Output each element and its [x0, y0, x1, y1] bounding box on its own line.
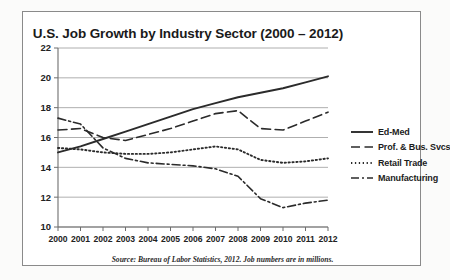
- legend-item-ed-med[interactable]: Ed-Med: [351, 124, 446, 140]
- x-tick-label: 2004: [138, 234, 157, 244]
- y-tick-label: 20: [40, 72, 51, 83]
- x-tick-label: 2003: [116, 234, 135, 244]
- y-tick-label: 22: [40, 42, 51, 53]
- series-lines-group: [58, 76, 328, 207]
- y-tick-label: 18: [40, 102, 51, 113]
- y-tick-label: 14: [40, 162, 51, 173]
- legend-label: Ed-Med: [378, 127, 410, 137]
- legend-label: Prof. & Bus. Svcs: [378, 142, 450, 152]
- legend-item-retail-trade[interactable]: Retail Trade: [351, 155, 446, 171]
- legend-item-manufacturing[interactable]: Manufacturing: [351, 171, 446, 187]
- gridlines-group: [58, 48, 328, 227]
- x-tick-label: 2010: [273, 234, 292, 244]
- series-line-ed-med: [58, 76, 328, 152]
- x-tick-label: 2011: [296, 234, 315, 244]
- legend-item-prof-bus-svcs[interactable]: Prof. & Bus. Svcs: [351, 140, 446, 156]
- legend-label: Retail Trade: [378, 158, 427, 168]
- source-note: Source: Bureau of Labor Statistics, 2012…: [23, 255, 422, 264]
- x-tick-label: 2008: [228, 234, 247, 244]
- y-tick-labels-group: 10121416182022: [40, 42, 51, 232]
- x-tick-label: 2012: [318, 234, 337, 244]
- legend-line-swatch-icon: [351, 142, 373, 152]
- x-tick-labels-group: 2000200120022003200420052006200720082009…: [48, 234, 337, 244]
- series-line-manufacturing: [58, 118, 328, 208]
- chart-legend: Ed-MedProf. & Bus. SvcsRetail TradeManuf…: [351, 124, 446, 186]
- x-tick-label: 2005: [161, 234, 180, 244]
- y-tick-label: 12: [40, 192, 51, 203]
- legend-line-swatch-icon: [351, 158, 373, 168]
- y-tick-label: 10: [40, 221, 51, 232]
- legend-line-swatch-icon: [351, 173, 373, 183]
- legend-line-swatch-icon: [351, 127, 373, 137]
- x-tick-label: 2006: [183, 234, 202, 244]
- x-tick-label: 2001: [71, 234, 90, 244]
- x-tick-label: 2002: [93, 234, 112, 244]
- series-line-retail-trade: [58, 146, 328, 162]
- x-tick-label: 2009: [251, 234, 270, 244]
- x-tick-label: 2000: [48, 234, 67, 244]
- series-line-prof-bus-svcs: [58, 111, 328, 141]
- chart-frame: U.S. Job Growth by Industry Sector (2000…: [22, 11, 421, 266]
- y-tick-label: 16: [40, 132, 51, 143]
- legend-label: Manufacturing: [378, 173, 438, 183]
- x-tick-label: 2007: [206, 234, 225, 244]
